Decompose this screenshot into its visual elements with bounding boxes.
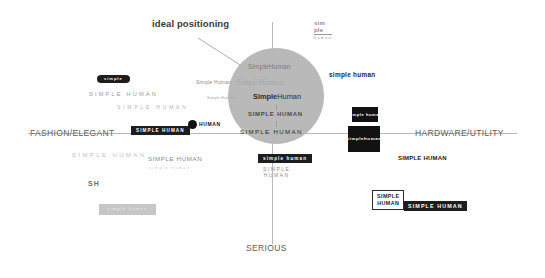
mark-gray-chip-left: simple human	[99, 196, 156, 215]
inverse-bar-chip: SIMPLE HUMAN	[404, 201, 467, 211]
stack-line-3: human	[314, 34, 332, 40]
mark-mid-caps-sub: simple human	[149, 166, 191, 170]
ideal-positioning-callout: ideal positioning	[152, 18, 229, 29]
circle-variant-3-bold: Simple	[253, 92, 277, 101]
circle-dot-icon	[188, 120, 197, 129]
pill-logo-chip: simple	[97, 75, 130, 83]
bottom-stack-line-2: HUMAN	[263, 173, 290, 179]
axis-label-hardware-utility: HARDWARE/UTILITY	[415, 128, 504, 138]
circle-variant-5: SIMPLE HUMAN	[240, 128, 303, 135]
mark-spaced-caps-3: SIMPLE HUMAN	[72, 152, 146, 159]
box-small-right-box: simple human	[352, 107, 378, 122]
circle-variant-3-regular: Human	[277, 92, 301, 101]
positioning-map-canvas: FASHION/ELEGANT HARDWARE/UTILITY SERIOUS…	[0, 0, 545, 278]
dot-logo-label: HUMAN	[199, 122, 221, 128]
mark-stack-logo: sim ple human	[314, 20, 332, 40]
box-right-line-1: simple	[347, 136, 365, 142]
circle-tick-1	[276, 104, 277, 110]
mark-spaced-caps-1: SIMPLE HUMAN	[89, 91, 158, 97]
mark-sh-monogram: SH	[88, 180, 100, 188]
mark-bold-right: simple human	[329, 71, 376, 78]
mark-bold-hardware: SIMPLE HUMAN	[398, 155, 447, 162]
circle-variant-3: SimpleHuman	[253, 92, 301, 101]
mark-box-right: simple human	[348, 126, 380, 152]
bottom-chip-chip: simple human	[258, 154, 312, 163]
box-right-line-2: human	[364, 136, 381, 142]
gray-chip-left-chip: simple human	[99, 204, 156, 215]
circle-tick-2	[276, 121, 277, 127]
mark-spaced-caps-2: SIMPLE HUMAN	[117, 105, 189, 111]
mark-bottom-chip: simple human	[258, 146, 312, 164]
dark-bar-left-chip: SIMPLE HUMAN	[131, 126, 190, 135]
axis-label-serious: SERIOUS	[246, 243, 287, 253]
circle-variant-1: SimpleHuman	[248, 63, 291, 70]
stack-line-2: ple	[314, 27, 332, 34]
mark-dark-bar-left: SIMPLE HUMAN	[131, 118, 190, 136]
mark-small-serif-1: Simple Human	[196, 80, 231, 86]
box-right-box: simple human	[348, 126, 380, 152]
outline-box-chip: SIMPLE HUMAN	[372, 190, 404, 210]
mark-bottom-stack: SIMPLE HUMAN	[263, 167, 290, 178]
mark-mid-caps: SIMPLE HUMAN	[148, 156, 202, 163]
mark-small-serif-2: Simple Human	[207, 96, 234, 100]
outline-box-line-1: SIMPLE	[377, 193, 399, 199]
mark-box-small-right: simple human	[352, 107, 378, 122]
circle-variant-2: SimpleHuman	[236, 78, 283, 87]
axis-label-fashion-elegant: FASHION/ELEGANT	[30, 128, 115, 138]
mark-inverse-bar: SIMPLE HUMAN	[404, 194, 467, 212]
mark-dot-logo: HUMAN	[188, 120, 221, 129]
stack-line-1: sim	[314, 20, 332, 27]
outline-box-line-2: HUMAN	[377, 200, 399, 206]
mark-outline-box: SIMPLE HUMAN	[372, 190, 404, 210]
mark-pill-logo: simple	[97, 66, 130, 84]
circle-variant-4: SIMPLE HUMAN	[248, 111, 303, 117]
